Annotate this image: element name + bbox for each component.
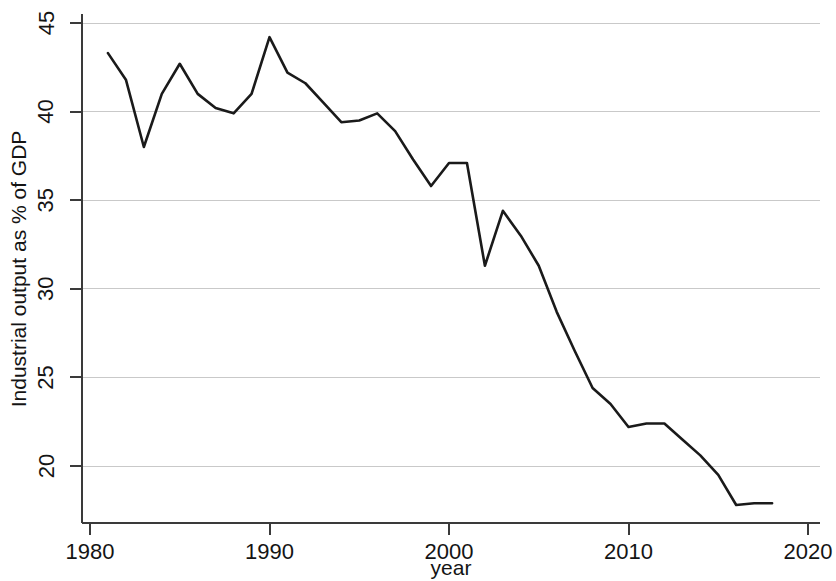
x-axis-tick-label: 2010 xyxy=(604,539,653,564)
x-axis-tick-label: 2020 xyxy=(784,539,833,564)
line-chart-canvas: 202530354045 19801990200020102020 Indust… xyxy=(0,0,836,581)
y-axis-tick-label: 40 xyxy=(34,99,59,123)
figure-background xyxy=(0,0,836,581)
x-axis-title: year xyxy=(431,556,472,579)
y-axis-tick-label: 25 xyxy=(34,365,59,389)
x-axis-tick-label: 1980 xyxy=(66,539,115,564)
y-axis-title: Industrial output as % of GDP xyxy=(7,131,30,408)
y-axis-tick-label: 30 xyxy=(34,277,59,301)
x-axis-tick-label: 1990 xyxy=(245,539,294,564)
y-axis-tick-label: 45 xyxy=(34,11,59,35)
y-axis-tick-label: 20 xyxy=(34,454,59,478)
y-axis-tick-label: 35 xyxy=(34,188,59,212)
chart-figure: 202530354045 19801990200020102020 Indust… xyxy=(0,0,836,581)
